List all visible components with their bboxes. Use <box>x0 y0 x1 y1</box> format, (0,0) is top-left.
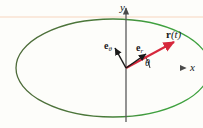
diagram-canvas <box>0 0 203 128</box>
e-r-label: er <box>136 43 143 55</box>
x-axis-label: x <box>190 62 195 73</box>
e-theta-vector <box>115 48 126 68</box>
r-vector-paren: (t) <box>171 28 181 40</box>
e-theta-label: eθ <box>104 41 112 53</box>
e-r-subscript: r <box>140 47 143 55</box>
polar-vector-diagram: x y θ er eθ r(t) <box>0 0 203 128</box>
y-axis-label: y <box>120 2 125 13</box>
theta-angle-label: θ <box>145 58 150 68</box>
e-theta-subscript: θ <box>108 45 111 53</box>
r-vector <box>126 42 174 68</box>
e-r-vector <box>126 54 146 68</box>
r-vector-label: r(t) <box>166 29 181 40</box>
